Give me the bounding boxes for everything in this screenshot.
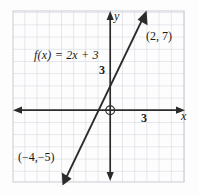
x-axis-tick-label: 3 xyxy=(141,112,147,124)
x-axis-label: x xyxy=(181,110,186,122)
point-label-upper: (2, 7) xyxy=(146,30,172,42)
point-label-lower: (−4,−5) xyxy=(18,151,55,163)
graph-figure: f(x) = 2x + 3 (2, 7) (−4,−5) 3 3 x y xyxy=(0,0,199,195)
y-axis-tick-label: 3 xyxy=(99,64,105,76)
function-equation-label: f(x) = 2x + 3 xyxy=(34,49,99,61)
y-axis-label: y xyxy=(114,10,119,22)
